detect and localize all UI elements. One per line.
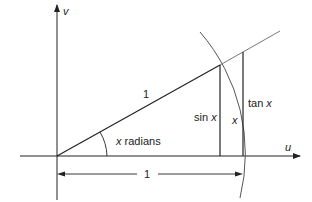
tan-label: tan x (248, 97, 272, 109)
angle-arc (100, 132, 107, 156)
dimension-arrow-left (57, 172, 65, 177)
base-dimension-label: 1 (144, 168, 150, 180)
arc-length-label: x (231, 114, 238, 126)
v-axis-label: v (63, 5, 70, 17)
hypotenuse-label: 1 (143, 88, 149, 100)
sin-label: sin x (194, 111, 217, 123)
u-axis-label: u (285, 141, 291, 153)
unit-circle-diagram: v u 1 x radians sin x x tan x 1 (0, 0, 312, 202)
angle-label: x radians (115, 135, 161, 147)
dimension-arrow-right (235, 172, 243, 177)
ray-extension (220, 31, 280, 65)
